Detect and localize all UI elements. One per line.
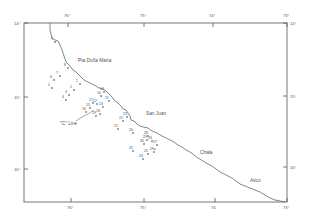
station-dot-icon — [73, 89, 75, 91]
station-dot-icon — [132, 132, 134, 134]
station-map: 76°75°74°73°76°75°7473°14°15°16°14°15°16… — [0, 0, 309, 217]
station-number: 22 — [119, 116, 123, 120]
station-number: 30 — [140, 139, 144, 143]
station-dot-icon — [65, 99, 67, 101]
c-line-label: "C" Line — [60, 121, 78, 126]
station-number: 6 — [50, 75, 52, 79]
station-dot-icon — [103, 91, 105, 93]
station-dot-icon — [59, 75, 61, 77]
station-number: 21 — [114, 124, 118, 128]
station-dot-icon — [143, 143, 145, 145]
station-number: 10 — [97, 91, 101, 95]
station-dot-icon — [53, 79, 55, 81]
map-background — [0, 0, 309, 217]
station-dot-icon — [89, 107, 91, 109]
station-number: 23 — [123, 112, 127, 116]
station-dot-icon — [146, 139, 148, 141]
station-dot-icon — [95, 115, 97, 117]
station-number: 13 — [99, 102, 103, 106]
station-dot-icon — [153, 151, 155, 153]
station-number: 7 — [56, 71, 58, 75]
place-label: Atico — [250, 178, 261, 183]
station-number: 31 — [129, 146, 133, 150]
latitude-label-right: 16° — [290, 165, 297, 170]
station-dot-icon — [54, 41, 56, 43]
station-number: 17 — [89, 98, 93, 102]
station-number: 29a — [150, 147, 156, 151]
latitude-label-right: 14° — [290, 21, 297, 26]
station-dot-icon — [92, 102, 94, 104]
station-number: 16 — [82, 107, 86, 111]
longitude-label-bottom: 73° — [283, 205, 290, 210]
station-dot-icon — [85, 111, 87, 113]
station-number: 5 — [48, 83, 50, 87]
station-dot-icon — [68, 94, 70, 96]
station-dot-icon — [102, 106, 104, 108]
longitude-label-top: 75° — [140, 13, 147, 18]
longitude-label-top: 76° — [64, 13, 71, 18]
station-dot-icon — [100, 95, 102, 97]
longitude-label-bottom: 76° — [67, 205, 74, 210]
place-label: Chala — [200, 150, 213, 155]
station-dot-icon — [126, 116, 128, 118]
station-number: 25 — [144, 149, 148, 153]
station-dot-icon — [142, 158, 144, 160]
station-dot-icon — [147, 153, 149, 155]
longitude-label-bottom: 75° — [140, 205, 147, 210]
place-label: San Juan — [146, 111, 167, 116]
station-number: 1 — [76, 79, 78, 83]
station-dot-icon — [147, 135, 149, 137]
latitude-label-right: 15° — [290, 94, 297, 99]
station-number: 14 — [100, 87, 104, 91]
latitude-label-left: 14° — [14, 21, 21, 26]
station-dot-icon — [51, 87, 53, 89]
station-number: 4 — [62, 95, 64, 99]
station-number: 27 — [153, 140, 157, 144]
longitude-label-bottom: 74 — [211, 205, 216, 210]
station-number: 24 — [139, 154, 143, 158]
station-number: 8 — [64, 63, 66, 67]
station-dot-icon — [99, 113, 101, 115]
station-dot-icon — [117, 128, 119, 130]
station-number: 12 — [93, 99, 97, 103]
station-dot-icon — [79, 83, 81, 85]
station-number: 9 — [51, 37, 53, 41]
station-number: 2 — [70, 85, 72, 89]
station-dot-icon — [96, 103, 98, 105]
station-number: 26 — [148, 136, 152, 140]
longitude-label-top: 73° — [283, 13, 290, 18]
station-dot-icon — [132, 150, 134, 152]
longitude-label-top: 74° — [209, 13, 216, 18]
station-number: 19 — [92, 111, 96, 115]
station-dot-icon — [67, 67, 69, 69]
station-number: 20 — [129, 128, 133, 132]
station-number: 11 — [105, 96, 109, 100]
station-dot-icon — [156, 144, 158, 146]
latitude-label-left: 15° — [14, 95, 21, 100]
latitude-label-left: 16° — [14, 167, 21, 172]
station-number: 18 — [96, 109, 100, 113]
station-dot-icon — [122, 120, 124, 122]
station-number: 3 — [65, 90, 67, 94]
station-dot-icon — [108, 100, 110, 102]
place-label: Pta Doña Maria — [78, 58, 112, 63]
station-number: 15 — [86, 103, 90, 107]
